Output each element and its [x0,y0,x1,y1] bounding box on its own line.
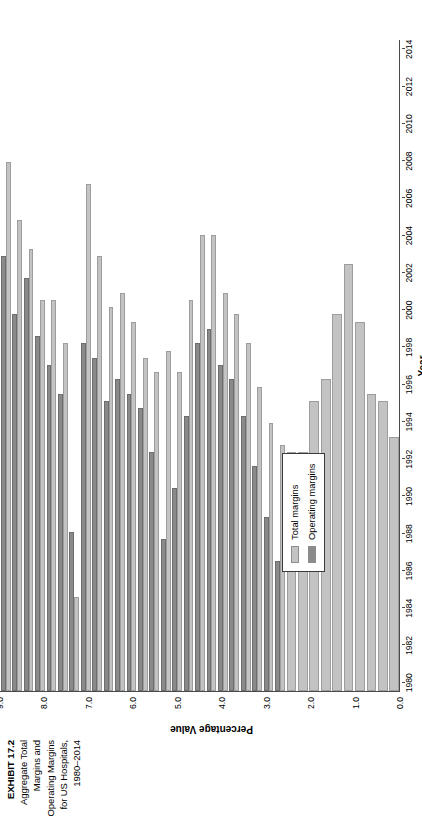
bar-group [17,40,22,691]
bar [200,235,205,691]
bar-group [149,40,154,691]
plot-area [0,40,400,692]
bar [104,401,109,691]
bar [138,408,143,691]
bar-group [97,40,102,691]
category-axis-tick: 1988 [404,524,414,543]
bar-group [246,40,251,691]
bar [143,358,148,691]
bar-group [200,40,205,691]
bar-group [131,40,136,691]
bar [223,293,228,691]
bar-group [138,40,143,691]
bar [177,372,182,691]
value-axis-tick: 1.0 [351,697,361,725]
category-axis-tick: 2002 [404,263,414,282]
bar-group [58,40,63,691]
bar-group [172,40,177,691]
bar [29,249,34,691]
category-axis-tick: 2008 [404,152,414,171]
bar [367,394,377,691]
bar-group [6,40,11,691]
category-axis-tick: 2004 [404,226,414,245]
value-axis-tick: 9.0 [0,697,5,725]
bar [109,307,114,691]
bar-group [275,40,280,691]
bar-group [184,40,189,691]
bar [269,423,274,691]
bar-group [109,40,114,691]
category-axis-tick: 1992 [404,450,414,469]
bar [40,300,45,691]
exhibit-number: EXHIBIT 17.2 [4,740,17,826]
bar [195,343,200,691]
bar-group [1,40,6,691]
bar [189,300,194,691]
bar [166,351,171,691]
legend-swatch-operating [308,546,316,563]
bar-group [177,40,182,691]
bar-group [287,40,297,691]
bar-group [166,40,171,691]
bar-group [195,40,200,691]
bar-group [211,40,216,691]
category-axis-tick: 1984 [404,599,414,618]
bar [257,387,262,691]
bar-group [234,40,239,691]
bar [229,380,234,692]
bar [47,365,52,691]
bar [115,380,120,692]
bar-group [321,40,331,691]
bar-series-container [0,40,399,691]
bar-group [378,40,388,691]
bar-group [367,40,377,691]
bar [172,488,177,691]
category-axis-tick: 1982 [404,636,414,655]
category-axis-tick: 2000 [404,301,414,320]
bar-group [389,40,399,691]
bar-group [241,40,246,691]
value-axis-tick: 4.0 [217,697,227,725]
chart-legend: Total marginsOperating margins [282,453,325,572]
bar [355,322,365,691]
bar-group [344,40,354,691]
bar-group [12,40,17,691]
value-axis-tick: 7.0 [84,697,94,725]
bar [344,264,354,691]
bar [149,452,154,691]
category-axis-tick: 2006 [404,189,414,208]
bar [1,256,6,691]
exhibit-figure-page: EXHIBIT 17.2 Aggregate Total Margins and… [0,0,422,830]
bar-group [69,40,74,691]
bar [131,322,136,691]
bar-group [332,40,342,691]
category-axis-tick: 2014 [404,40,414,59]
bar-group [24,40,29,691]
bar [24,278,29,691]
category-axis-tick: 1996 [404,375,414,394]
category-axis-tick: 1990 [404,487,414,506]
bar-group [280,40,285,691]
bar [97,256,102,691]
bar [35,336,40,691]
category-axis-tick: 1986 [404,561,414,580]
bar [234,314,239,691]
bar [58,394,63,691]
bar-group [115,40,120,691]
bar-chart: Percentage Value 0.01.02.03.04.05.06.07.… [0,0,422,740]
exhibit-caption-body: Aggregate Total Margins and Operating Ma… [17,740,83,826]
value-axis-tick: 5.0 [173,697,183,725]
legend-label: Total margins [290,485,300,540]
value-axis-tick-labels: 0.01.02.03.04.05.06.07.08.09.0 [0,694,422,724]
bar-group [269,40,274,691]
bar-group [51,40,56,691]
bar [241,416,246,691]
value-axis-tick: 3.0 [262,697,272,725]
bar [74,597,79,691]
exhibit-caption-text: EXHIBIT 17.2 Aggregate Total Margins and… [4,740,83,826]
category-axis-tick: 2012 [404,77,414,96]
bar-group [264,40,269,691]
bar-group [309,40,319,691]
bar [69,532,74,691]
category-axis-tick: 1998 [404,338,414,357]
